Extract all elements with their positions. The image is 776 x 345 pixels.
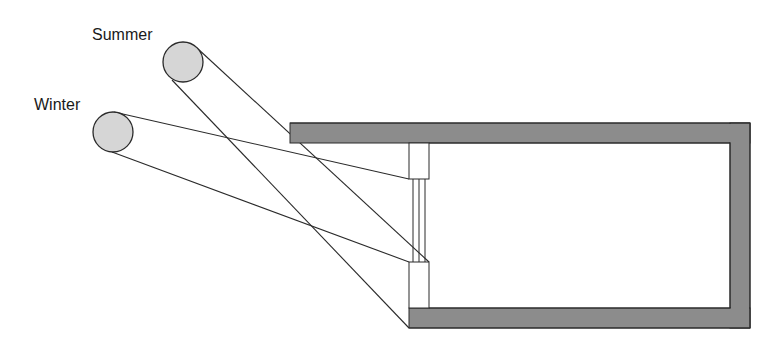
window-sill — [409, 262, 429, 308]
window-header — [409, 143, 429, 179]
back-wall-fill — [731, 124, 749, 327]
diagram-canvas — [0, 0, 776, 345]
floor-wall-fill — [410, 309, 749, 327]
winter-sun-icon — [93, 112, 133, 152]
building-walls — [290, 123, 750, 328]
summer-ray-upper — [197, 48, 429, 262]
summer-sun-icon — [163, 42, 203, 82]
roof-wall-fill — [291, 124, 749, 142]
summer-ray-lower — [172, 80, 409, 328]
